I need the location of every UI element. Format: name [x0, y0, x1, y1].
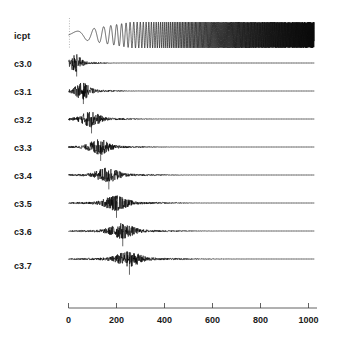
panel-label-c3-4: c3.4 — [14, 171, 32, 181]
trace-icpt — [69, 22, 315, 48]
trace-c3.4 — [69, 168, 315, 182]
x-tick-label: 200 — [109, 315, 124, 325]
trace-c3.2 — [69, 112, 315, 127]
panel-label-c3-2: c3.2 — [14, 115, 32, 125]
panel-label-icpt: icpt — [14, 31, 30, 41]
plot-canvas — [0, 0, 337, 345]
panel-label-c3-6: c3.6 — [14, 227, 32, 237]
x-tick-label: 0 — [66, 315, 71, 325]
trace-c3.7 — [69, 252, 315, 267]
x-axis — [69, 303, 318, 308]
trace-c3.1 — [69, 83, 315, 100]
panel-label-c3-3: c3.3 — [14, 143, 32, 153]
panel-label-c3-5: c3.5 — [14, 199, 32, 209]
trace-c3.6 — [69, 223, 315, 238]
trace-c3.5 — [69, 195, 315, 210]
x-tick-label: 600 — [205, 315, 220, 325]
panel-label-c3-0: c3.0 — [14, 59, 32, 69]
wavelet-coefficient-plot: icpt c3.0 c3.1 c3.2 c3.3 c3.4 c3.5 c3.6 … — [0, 0, 337, 345]
traces-group — [69, 18, 315, 275]
x-tick-label: 800 — [253, 315, 268, 325]
trace-c3.3 — [69, 139, 315, 154]
panel-label-c3-7: c3.7 — [14, 261, 32, 271]
panel-label-c3-1: c3.1 — [14, 87, 32, 97]
x-tick-label: 400 — [157, 315, 172, 325]
x-tick-label: 1000 — [298, 315, 318, 325]
trace-c3.0 — [69, 54, 315, 71]
